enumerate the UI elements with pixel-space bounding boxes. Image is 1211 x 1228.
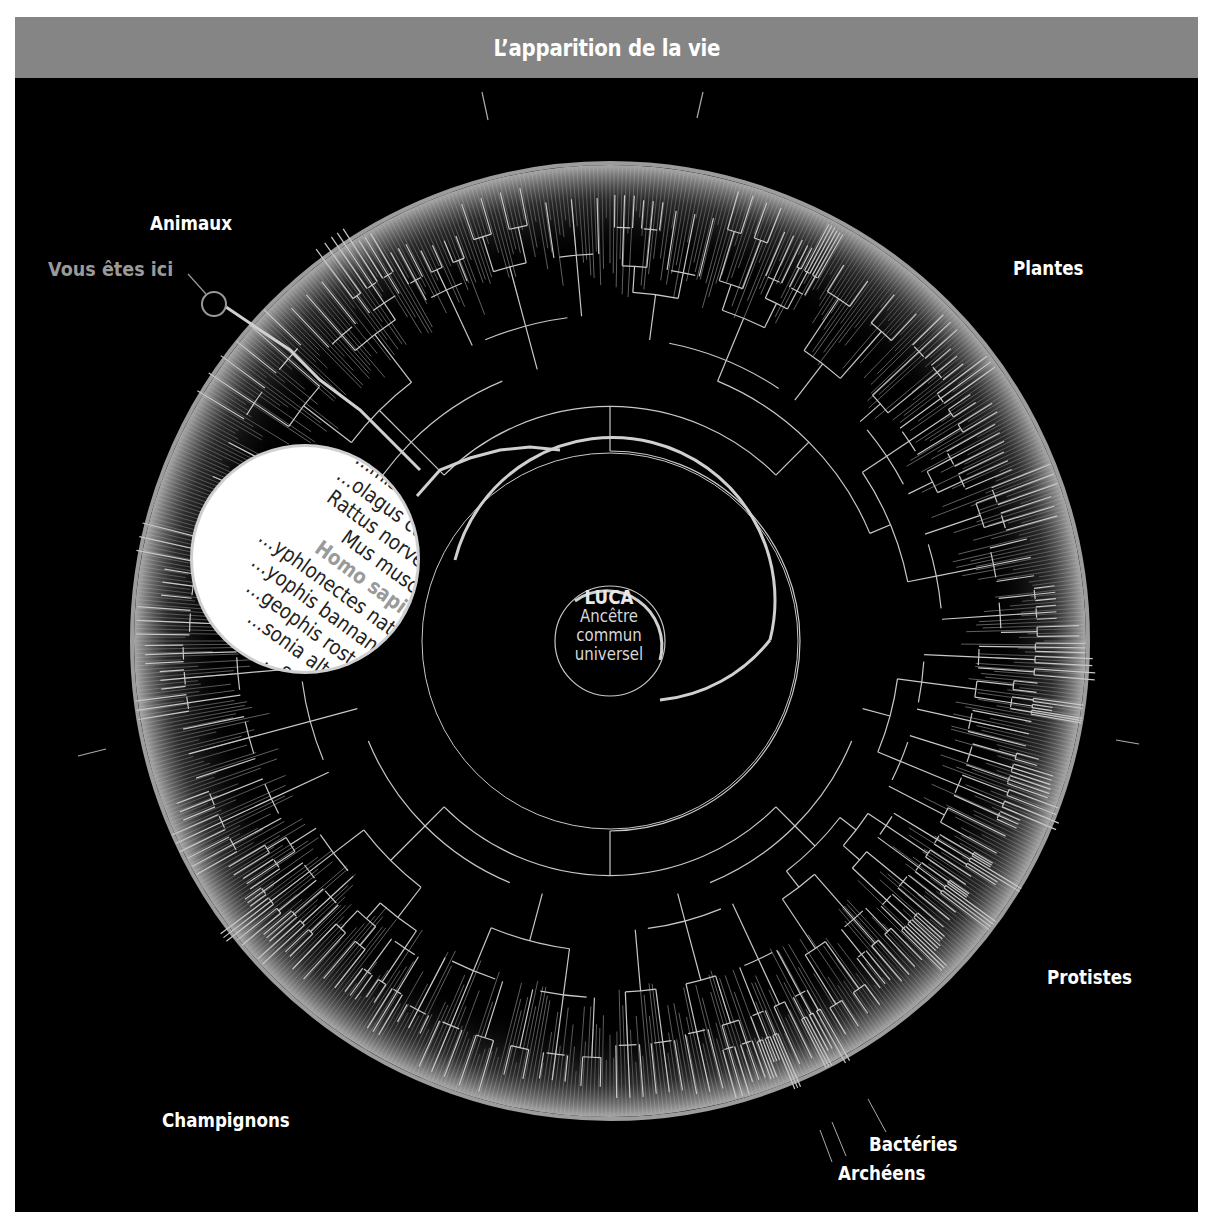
- label-fungi: Champignons: [162, 1109, 290, 1131]
- you-are-here-marker: [202, 292, 226, 316]
- label-protists: Protistes: [1047, 966, 1132, 988]
- luca-line-2: commun: [562, 626, 655, 645]
- label-you-are-here: Vous êtes ici: [48, 257, 173, 281]
- label-plants: Plantes: [1013, 257, 1083, 279]
- magnifier-callout: …mississippiensis …olagus cuniculus Ratt…: [193, 447, 417, 671]
- luca-line-1: Ancêtre: [562, 607, 655, 626]
- label-archaea: Archéens: [838, 1162, 926, 1184]
- luca-line-3: universel: [562, 645, 655, 664]
- label-animals: Animaux: [150, 212, 232, 234]
- luca-title: LUCA: [562, 588, 655, 607]
- label-bacteria: Bactéries: [869, 1133, 958, 1155]
- luca-root-label: LUCA Ancêtre commun universel: [556, 588, 662, 664]
